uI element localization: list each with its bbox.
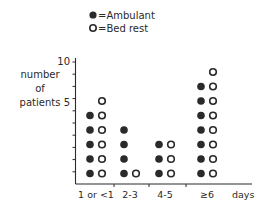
ambulant-dot [86, 155, 94, 163]
ambulant-dot [86, 170, 94, 178]
ambulant-dot [120, 126, 128, 134]
legend-bed-rest-label: =Bed rest [98, 23, 148, 34]
x-tick-label: 2-3 [122, 189, 138, 200]
y-label-line-3: patients [20, 97, 61, 108]
x-tick-label: ≥6 [200, 189, 214, 200]
bed-rest-dot [168, 170, 175, 177]
ambulant-dot [155, 170, 163, 178]
ambulant-dot [197, 155, 205, 163]
ambulant-dot [197, 126, 205, 134]
bed-rest-dot [210, 112, 217, 119]
bed-rest-dot [210, 127, 217, 134]
y-axis-label: number of patients [20, 69, 61, 108]
bed-rest-dot [210, 156, 217, 163]
ambulant-dot [197, 170, 205, 178]
dot-chart: =Ambulant =Bed rest number of patients 5… [0, 0, 274, 204]
ambulant-dot [86, 141, 94, 149]
legend-bed-rest-marker-icon [90, 25, 96, 31]
ambulant-dot [120, 170, 128, 178]
legend-ambulant-label: =Ambulant [98, 10, 155, 21]
data-dots [86, 69, 216, 178]
bed-rest-dot [210, 83, 217, 90]
bed-rest-dot [99, 112, 106, 119]
bed-rest-dot [210, 141, 217, 148]
bed-rest-dot [99, 98, 106, 105]
ambulant-dot [197, 97, 205, 105]
x-tick-label: 1 or <1 [78, 189, 114, 200]
x-tick-label: 4-5 [157, 189, 173, 200]
bed-rest-dot [210, 170, 217, 177]
ambulant-dot [86, 112, 94, 120]
ambulant-dot [120, 155, 128, 163]
y-tick-label-5: 5 [64, 97, 70, 108]
bed-rest-dot [210, 98, 217, 105]
ambulant-dot [197, 112, 205, 120]
ambulant-dot [197, 141, 205, 149]
x-axis-unit-label: days [232, 189, 254, 200]
y-label-line-1: number [20, 69, 60, 80]
bed-rest-dot [133, 170, 140, 177]
ambulant-dot [155, 155, 163, 163]
bed-rest-dot [168, 156, 175, 163]
legend: =Ambulant =Bed rest [89, 10, 154, 34]
y-label-line-2: of [35, 83, 45, 94]
bed-rest-dot [99, 127, 106, 134]
bed-rest-dot [210, 69, 217, 76]
ambulant-dot [197, 83, 205, 91]
axes [76, 58, 253, 184]
x-tick-labels: 1 or <12-34-5≥6 [78, 189, 214, 200]
bed-rest-dot [168, 141, 175, 148]
bed-rest-dot [99, 170, 106, 177]
legend-ambulant-marker-icon [89, 11, 96, 18]
ambulant-dot [155, 141, 163, 149]
ambulant-dot [86, 126, 94, 134]
y-tick-label-10: 10 [57, 56, 70, 67]
ambulant-dot [120, 141, 128, 149]
bed-rest-dot [99, 156, 106, 163]
bed-rest-dot [99, 141, 106, 148]
